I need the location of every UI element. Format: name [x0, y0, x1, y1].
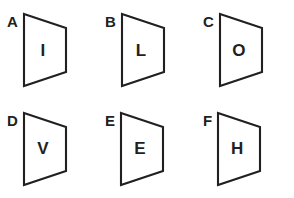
- trapezoid-shape-e[interactable]: E: [119, 111, 167, 187]
- figure-item-c[interactable]: C O: [196, 0, 294, 99]
- figure-label-c: C: [203, 14, 214, 29]
- figure-item-f[interactable]: F H: [196, 99, 294, 198]
- figure-label-b: B: [105, 14, 116, 29]
- trapezoid-shape-f[interactable]: H: [216, 111, 264, 187]
- figure-label-a: A: [7, 14, 18, 29]
- figure-item-d[interactable]: D V: [0, 99, 98, 198]
- figure-item-e[interactable]: E E: [98, 99, 196, 198]
- trapezoid-shape-c[interactable]: O: [218, 12, 266, 88]
- figure-label-d: D: [7, 113, 18, 128]
- figure-item-b[interactable]: B L: [98, 0, 196, 99]
- figure-label-f: F: [203, 113, 212, 128]
- trapezoid-shape-d[interactable]: V: [22, 111, 70, 187]
- figure-grid: A I B L C O: [0, 0, 294, 197]
- trapezoid-shape-b[interactable]: L: [120, 12, 168, 88]
- trapezoid-shape-a[interactable]: I: [22, 12, 70, 88]
- figure-item-a[interactable]: A I: [0, 0, 98, 99]
- figure-label-e: E: [105, 113, 115, 128]
